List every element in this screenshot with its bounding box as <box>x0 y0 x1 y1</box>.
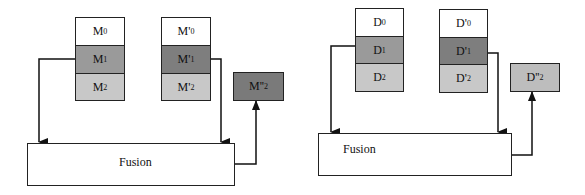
arrow-m1-to-fusion <box>39 59 75 142</box>
block-d0: D0 <box>355 8 404 37</box>
block-d2-prime: D'2 <box>439 64 488 93</box>
arrow-fusion-to-d2dprime <box>511 92 532 155</box>
arrow-d1prime-to-fusion <box>487 53 498 132</box>
arrow-m1prime-to-fusion <box>210 59 221 142</box>
block-m1-prime: M'1 <box>161 45 211 74</box>
block-d2: D2 <box>355 63 404 92</box>
block-m0: M0 <box>75 17 125 46</box>
fusion-label-right: Fusion <box>343 142 376 157</box>
block-m2-prime: M'2 <box>161 73 211 101</box>
block-m0-prime: M'0 <box>161 17 211 46</box>
arrow-d1-to-fusion <box>331 46 355 132</box>
block-m2-double-prime: M''2 <box>233 72 284 101</box>
fusion-box-right: Fusion <box>318 133 512 176</box>
block-d1: D1 <box>355 36 404 64</box>
block-d1-prime: D'1 <box>439 37 488 65</box>
fusion-box-left: Fusion <box>27 143 235 186</box>
block-d0-prime: D'0 <box>439 9 488 38</box>
arrow-fusion-to-m2dprime <box>234 101 256 164</box>
block-m1: M1 <box>75 45 125 74</box>
block-d2-double-prime: D''2 <box>510 63 560 92</box>
fusion-label-left: Fusion <box>119 155 152 170</box>
block-m2: M2 <box>75 73 125 101</box>
